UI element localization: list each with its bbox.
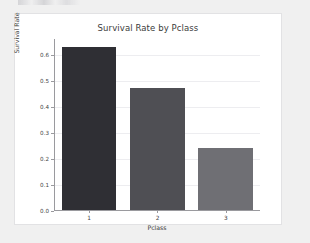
bar (130, 88, 185, 210)
y-tick-label: 0.2 (40, 156, 49, 162)
bar-slot: 2 (123, 39, 191, 210)
x-tick-label: 1 (55, 215, 123, 221)
chart-title: Survival Rate by Pclass (15, 23, 281, 33)
bar-series: 123 (55, 39, 260, 210)
x-axis-label: Pclass (54, 224, 260, 231)
y-tick-label: 0.3 (40, 130, 49, 136)
y-axis-label: Survival Rate (13, 0, 20, 98)
x-tick-label: 2 (123, 215, 191, 221)
plot-area: 0.00.10.20.30.40.50.6 123 (54, 39, 260, 211)
x-tick-mark (226, 210, 227, 213)
chart-figure: Survival Rate by Pclass Survival Rate 0.… (15, 14, 281, 224)
y-tick-label: 0.6 (40, 52, 49, 58)
y-tick-label: 0.5 (40, 78, 49, 84)
bar (198, 148, 253, 210)
x-tick-mark (89, 210, 90, 213)
x-tick-mark (157, 210, 158, 213)
top-edge-artifact (18, 0, 80, 5)
bar-slot: 3 (192, 39, 260, 210)
x-tick-label: 3 (192, 215, 260, 221)
y-tick-label: 0.4 (40, 104, 49, 110)
y-tick-mark (51, 211, 54, 212)
bar (62, 47, 117, 210)
y-tick-label: 0.0 (40, 208, 49, 214)
page-root: Survival Rate by Pclass Survival Rate 0.… (0, 0, 310, 243)
bar-slot: 1 (55, 39, 123, 210)
chart-card: Survival Rate by Pclass Survival Rate 0.… (14, 13, 282, 225)
y-tick-label: 0.1 (40, 182, 49, 188)
